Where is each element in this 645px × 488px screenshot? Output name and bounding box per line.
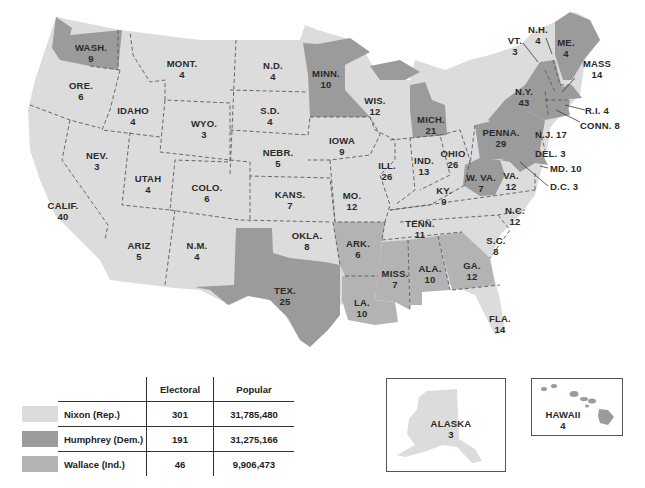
label-sd: S.D. 4 (260, 105, 279, 127)
label-nj: N.J. 17 (535, 129, 567, 140)
label-wva: W. VA. 7 (466, 172, 496, 194)
label-conn: CONN. 8 (580, 120, 620, 131)
label-iowa: IOWA 9 (329, 135, 355, 157)
label-nd: N.D. 4 (263, 60, 283, 82)
label-idaho: IDAHO 4 (117, 105, 149, 127)
label-ill: ILL. 26 (378, 160, 396, 182)
label-fla: FLA. 14 (489, 313, 511, 335)
electoral-votes: 191 (147, 427, 214, 452)
label-ky: KY. 9 (436, 185, 451, 207)
label-wyo: WYO. 3 (191, 118, 217, 140)
label-nc: N.C. 12 (505, 205, 525, 227)
electoral-votes: 46 (147, 452, 214, 477)
label-okla: OKLA. 8 (292, 230, 323, 252)
label-la: LA. 10 (354, 297, 370, 319)
nixon-color-swatch (22, 406, 58, 422)
label-wash: WASH. 9 (75, 42, 107, 64)
label-md: MD. 10 (550, 163, 582, 174)
label-kans: KANS. 7 (275, 189, 306, 211)
label-nebr: NEBR. 5 (263, 147, 294, 169)
label-sc: S.C. 8 (486, 235, 505, 257)
label-me: ME. 4 (557, 37, 575, 59)
electoral-votes: 301 (147, 402, 214, 427)
label-alaska: ALASKA 3 (431, 418, 472, 440)
label-ore: ORE. 6 (69, 80, 93, 102)
label-del: DEL. 3 (535, 148, 566, 159)
hawaii-inset: HAWAII 4 (531, 378, 623, 436)
label-ri: R.I. 4 (585, 105, 609, 116)
label-dc: D.C. 3 (550, 181, 578, 192)
candidate-name: Humphrey (Dem.) (58, 427, 147, 452)
header-electoral: Electoral (147, 377, 214, 402)
popular-votes: 9,906,473 (214, 452, 295, 477)
label-ark: ARK. 6 (346, 238, 370, 260)
label-tex: TEX. 25 (274, 285, 296, 307)
wallace-color-swatch (22, 456, 58, 472)
label-vt: VT. 3 (508, 35, 522, 57)
candidate-name: Wallace (Ind.) (58, 452, 147, 477)
popular-votes: 31,785,480 (214, 402, 295, 427)
label-wis: WIS. 12 (364, 95, 385, 117)
label-ala: ALA. 10 (419, 263, 442, 285)
candidate-name: Nixon (Rep.) (58, 402, 147, 427)
legend-header-row: Electoral Popular (22, 377, 294, 402)
label-mo: MO. 12 (343, 190, 362, 212)
label-colo: COLO. 6 (191, 182, 222, 204)
label-nev: NEV. 3 (86, 150, 108, 172)
alaska-inset: ALASKA 3 (386, 378, 506, 472)
label-nh: N.H. 4 (528, 24, 548, 46)
label-va: VA. 12 (503, 170, 519, 192)
label-ind: IND. 13 (414, 155, 434, 177)
header-popular: Popular (214, 377, 295, 402)
label-minn: MINN. 10 (312, 68, 340, 90)
label-penna: PENNA. 29 (482, 127, 519, 149)
label-ga: GA. 12 (463, 260, 481, 282)
legend-row-nixon: Nixon (Rep.) 301 31,785,480 (22, 402, 294, 427)
legend-row-wallace: Wallace (Ind.) 46 9,906,473 (22, 452, 294, 477)
label-mass: MASS 14 (583, 58, 611, 80)
label-nm: N.M. 4 (187, 240, 208, 262)
legend-row-humphrey: Humphrey (Dem.) 191 31,275,166 (22, 427, 294, 452)
label-ohio: OHIO 26 (440, 148, 465, 170)
label-calif: CALIF. 40 (48, 200, 79, 222)
popular-votes: 31,275,166 (214, 427, 295, 452)
label-ariz: ARIZ 5 (128, 240, 151, 262)
results-legend-table: Electoral Popular Nixon (Rep.) 301 31,78… (22, 377, 294, 476)
humphrey-color-swatch (22, 431, 58, 447)
label-hawaii: HAWAII 4 (546, 409, 581, 431)
label-mich: MICH. 21 (417, 114, 445, 136)
label-utah: UTAH 4 (135, 173, 161, 195)
label-ny: N.Y. 43 (515, 86, 533, 108)
label-tenn: TENN. 11 (405, 218, 435, 240)
label-miss: MISS. 7 (382, 268, 409, 290)
label-mont: MONT. 4 (167, 58, 198, 80)
